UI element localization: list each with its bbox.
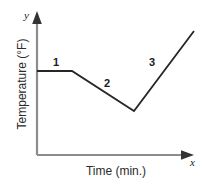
segment-label-1: 1 bbox=[53, 57, 59, 68]
temperature-data-line bbox=[37, 31, 194, 111]
y-axis-arrowhead bbox=[32, 11, 42, 24]
temperature-vs-time-graph: y x 1 2 3 Time (min.) Temperature (°F) bbox=[0, 0, 204, 190]
y-axis-title: Temperature (°F) bbox=[16, 14, 28, 154]
segment-label-2: 2 bbox=[104, 78, 110, 89]
segment-label-3: 3 bbox=[149, 57, 155, 68]
x-axis-title: Time (min.) bbox=[36, 165, 196, 177]
plot-area bbox=[0, 0, 204, 190]
